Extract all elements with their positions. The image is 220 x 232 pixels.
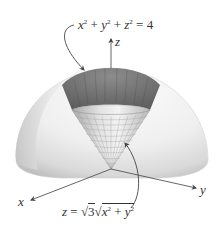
sphere-cone-diagram: x2 + y2 + z2 = 4 z x y z = √3√x2 + y2 [0,0,220,232]
x-axis-label: x [18,194,24,210]
cone-equation-label: z = √3√x2 + y2 [62,204,134,220]
diagram-canvas [0,0,220,232]
sphere-equation-label: x2 + y2 + z2 = 4 [78,17,153,33]
z-axis-label: z [115,34,120,50]
y-axis-label: y [200,182,206,198]
